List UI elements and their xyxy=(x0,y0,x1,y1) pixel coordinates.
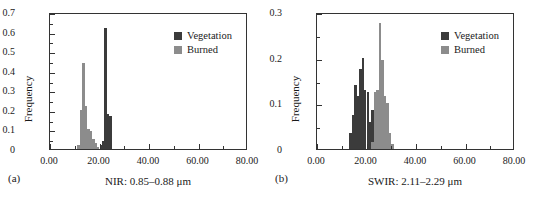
legend-label: Vegetation xyxy=(187,31,232,42)
x-tick-label: 40.00 xyxy=(128,156,168,166)
x-tick-label: 80.00 xyxy=(494,156,534,166)
y-tick xyxy=(50,92,55,93)
legend-label: Vegetation xyxy=(454,31,499,42)
legend-swatch-icon xyxy=(174,46,182,54)
y-tick-label: 0.1 xyxy=(3,125,16,135)
x-tick-label: 20.00 xyxy=(346,156,386,166)
x-tick-label: 60.00 xyxy=(445,156,485,166)
x-tick xyxy=(317,144,318,149)
y-tick xyxy=(317,60,322,61)
y-tick-label: 0.3 xyxy=(270,8,283,18)
y-minor-tick xyxy=(50,102,53,103)
y-tick-label: 0 xyxy=(10,145,15,155)
x-tick xyxy=(367,144,368,149)
legend-a: Vegetation Burned xyxy=(174,31,232,55)
y-tick-label: 0.7 xyxy=(3,8,16,18)
y-tick xyxy=(50,131,55,132)
x-tick xyxy=(466,144,467,149)
y-tick-label: 0.6 xyxy=(3,28,16,38)
x-axis-title-b: SWIR: 2.11–2.29 μm xyxy=(316,175,514,187)
x-tick xyxy=(100,144,101,149)
y-axis-title-a: Frequency xyxy=(22,76,34,122)
panel-label-a: (a) xyxy=(8,172,20,184)
panel-label-b: (b) xyxy=(275,172,288,184)
x-tick xyxy=(199,144,200,149)
x-minor-tick xyxy=(391,146,392,149)
x-tick-label: 20.00 xyxy=(79,156,119,166)
y-tick xyxy=(317,14,322,15)
plot-frame-b: Vegetation Burned xyxy=(316,13,514,150)
legend-swatch-icon xyxy=(174,32,182,40)
x-tick-label: 0.00 xyxy=(29,156,69,166)
legend-item-burned: Burned xyxy=(174,45,232,56)
x-tick xyxy=(416,144,417,149)
x-tick xyxy=(50,144,51,149)
x-tick-label: 80.00 xyxy=(227,156,267,166)
y-axis-title-b: Frequency xyxy=(289,76,301,122)
y-tick-label: 0 xyxy=(277,145,282,155)
x-minor-tick xyxy=(223,146,224,149)
y-minor-tick xyxy=(50,141,53,142)
y-tick xyxy=(50,112,55,113)
y-tick-label: 0.2 xyxy=(270,54,283,64)
y-minor-tick xyxy=(317,37,320,38)
y-tick-label: 0.5 xyxy=(3,47,16,57)
histogram-bar xyxy=(109,116,111,149)
x-minor-tick xyxy=(174,146,175,149)
legend-item-burned: Burned xyxy=(441,45,499,56)
legend-label: Burned xyxy=(454,45,485,56)
y-tick xyxy=(50,53,55,54)
y-tick-label: 0.1 xyxy=(270,99,283,109)
figure-histograms: Frequency Vegetation Burned 00.10.20.30.… xyxy=(0,0,534,198)
y-minor-tick xyxy=(50,83,53,84)
x-tick-label: 40.00 xyxy=(395,156,435,166)
legend-b: Vegetation Burned xyxy=(441,31,499,55)
x-minor-tick xyxy=(124,146,125,149)
x-minor-tick xyxy=(75,146,76,149)
y-minor-tick xyxy=(50,43,53,44)
y-tick xyxy=(50,14,55,15)
x-axis-title-a: NIR: 0.85–0.88 μm xyxy=(49,175,247,187)
legend-label: Burned xyxy=(187,45,218,56)
x-minor-tick xyxy=(490,146,491,149)
legend-item-vegetation: Vegetation xyxy=(174,31,232,42)
x-tick-label: 0.00 xyxy=(296,156,336,166)
plot-frame-a: Vegetation Burned xyxy=(49,13,247,150)
y-tick-label: 0.3 xyxy=(3,86,16,96)
legend-swatch-icon xyxy=(441,46,449,54)
y-minor-tick xyxy=(317,83,320,84)
panel-b: Frequency Vegetation Burned 00.10.20.30.… xyxy=(267,0,534,198)
legend-item-vegetation: Vegetation xyxy=(441,31,499,42)
y-tick-label: 0.4 xyxy=(3,67,16,77)
x-minor-tick xyxy=(441,146,442,149)
y-minor-tick xyxy=(50,24,53,25)
y-tick-label: 0.2 xyxy=(3,106,16,116)
legend-swatch-icon xyxy=(441,32,449,40)
x-tick-label: 60.00 xyxy=(178,156,218,166)
x-minor-tick xyxy=(342,146,343,149)
x-tick xyxy=(149,144,150,149)
y-tick xyxy=(50,34,55,35)
panel-a: Frequency Vegetation Burned 00.10.20.30.… xyxy=(0,0,267,198)
y-tick xyxy=(317,105,322,106)
y-minor-tick xyxy=(50,63,53,64)
y-minor-tick xyxy=(50,122,53,123)
y-tick xyxy=(50,73,55,74)
y-minor-tick xyxy=(317,128,320,129)
